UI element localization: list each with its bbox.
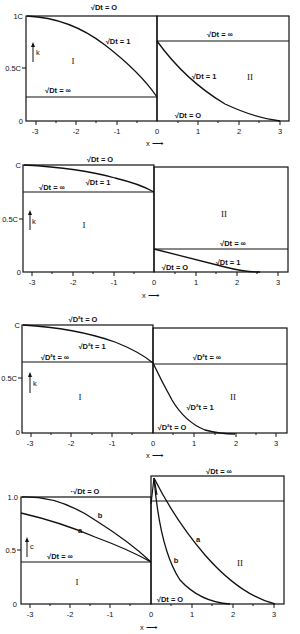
label-sqrtDt-0-I: ·√Dt = O: [71, 487, 100, 496]
x-axis-label: x ⟶: [146, 139, 164, 148]
label-sqrtDt-0-II: √Dt = O: [157, 595, 184, 604]
curve-sqrtDt-1-I: [27, 16, 157, 97]
x-axis-label: x ⟶: [140, 623, 158, 632]
chart-panel-2: -3 -2 -1 0 1 2 3 C 0.5C 0 k √Dt = O √Dt …: [0, 150, 300, 300]
x-tick-label: -2: [67, 610, 74, 619]
x-tick-label: 1: [190, 610, 194, 619]
label-sqrtDt-0-II: √Dt = O: [175, 111, 202, 120]
y-tick-label: C: [16, 161, 22, 170]
x-tick-label: 3: [274, 439, 278, 448]
region-II-frame: [153, 328, 287, 433]
y-tick-label: 0: [16, 428, 20, 437]
x-tick-label: -2: [68, 439, 75, 448]
label-sqrtDt-inf-I: √Dt = ∞: [45, 86, 71, 95]
region-II-label: II: [237, 558, 243, 568]
x-tick-label: 2: [237, 127, 241, 136]
chart-panel-2-svg: -3 -2 -1 0 1 2 3 C 0.5C 0 k √Dt = O √Dt …: [0, 150, 300, 300]
x-tick-label: 0: [152, 278, 156, 287]
y-axis-label: k: [32, 217, 36, 226]
y-axis-label: c: [30, 542, 34, 551]
x-tick-label: 0: [155, 127, 159, 136]
x-tick-label: 0: [149, 610, 153, 619]
label-sqrtD2t-1-II: √D²t = 1: [186, 403, 213, 412]
y-tick-label: 0.5C: [2, 215, 18, 224]
label-sqrtD2t-0-II: √D²t = O: [158, 423, 187, 432]
label-sqrtDt-1-II: √Dt = 1: [216, 258, 241, 267]
label-sqrtDt-0-I: √Dt = O: [87, 155, 114, 164]
y-tick-label: 0.5C: [5, 64, 21, 73]
x-tick-label: 1: [194, 278, 198, 287]
y-tick-label: 1.0: [8, 493, 18, 502]
x-ticks: [18, 378, 276, 437]
region-I-label: I: [79, 392, 82, 402]
x-tick-label: 2: [234, 439, 238, 448]
y-axis-arrow-icon: [28, 372, 32, 393]
x-tick-label: 2: [235, 278, 239, 287]
x-tick-label: 2: [231, 610, 235, 619]
label-curve-a-II: a: [196, 535, 201, 544]
y-tick-label: 0: [19, 117, 23, 126]
label-sqrtDt-1-I: √Dt = 1: [106, 37, 131, 46]
y-axis-label: k: [33, 379, 37, 388]
region-I-frame: [21, 497, 151, 604]
region-II-frame: [154, 167, 288, 272]
y-tick-label: 0: [17, 268, 21, 277]
label-curve-b-I: b: [98, 511, 103, 520]
label-sqrtDt-inf-II: √Dt = ∞: [220, 239, 246, 248]
label-sqrtD2t-inf-I: √D²t = ∞: [41, 353, 69, 362]
x-tick-label: 3: [272, 610, 276, 619]
chart-panel-4: -3 -2 -1 0 1 2 3 1.0 0.5 0 c ·√Dt = O b …: [0, 460, 300, 634]
chart-panel-3: -3 -2 -1 0 1 2 3 C 0.5C 0 k √D²t = O √D²…: [0, 300, 300, 460]
label-sqrtDt-1-II: √Dt = 1: [192, 72, 217, 81]
x-tick-label: -1: [107, 610, 114, 619]
chart-panel-1: -3 -2 -1 0 1 2 3 1C 0.5C 0 k √Dt = O √Dt…: [0, 0, 300, 150]
label-sqrtDt-inf-II: √Dt = ∞: [206, 467, 232, 476]
region-II-label: II: [247, 72, 253, 82]
label-sqrtDt-0-I: √Dt = O: [91, 3, 118, 12]
region-I-label: I: [83, 220, 86, 230]
y-tick-label: 0.5C: [1, 374, 17, 383]
label-sqrtDt-1-I: √Dt = 1: [86, 178, 111, 187]
x-tick-label: 1: [196, 127, 200, 136]
x-tick-label: -1: [109, 439, 116, 448]
x-tick-label: -2: [70, 278, 77, 287]
region-I-frame: [26, 16, 157, 121]
label-sqrtD2t-inf-II: √D²t = ∞: [193, 353, 221, 362]
x-tick-label: 0: [151, 439, 155, 448]
curve-b-II: [154, 478, 230, 604]
x-axis-label: x ⟶: [146, 451, 164, 460]
y-axis-label: k: [36, 48, 40, 57]
chart-panel-4-svg: -3 -2 -1 0 1 2 3 1.0 0.5 0 c ·√Dt = O b …: [0, 460, 300, 634]
label-sqrtDt-inf-I: √Dt = ∞: [47, 552, 73, 561]
x-tick-label: 1: [192, 439, 196, 448]
region-II-label: II: [221, 209, 227, 219]
label-curve-b-II: b: [174, 556, 179, 565]
y-tick-label: C: [15, 321, 21, 330]
x-tick-label: -2: [73, 127, 80, 136]
x-tick-label: 3: [278, 127, 282, 136]
label-sqrtD2t-1-I: √D²t = 1: [78, 342, 105, 351]
x-tick-label: -1: [114, 127, 121, 136]
y-tick-label: 0: [13, 600, 17, 609]
curve-a-I: [21, 513, 151, 562]
label-sqrtDt-inf-I: √Dt = ∞: [39, 183, 65, 192]
curve-a-II: [154, 478, 275, 604]
chart-panel-3-svg: -3 -2 -1 0 1 2 3 C 0.5C 0 k √D²t = O √D²…: [0, 300, 300, 460]
x-tick-label: 3: [276, 278, 280, 287]
curve-sqrtDt-1-II: [157, 41, 280, 121]
region-II-frame: [151, 476, 284, 604]
x-tick-label: -3: [32, 127, 39, 136]
y-tick-label: 0.5: [6, 546, 16, 555]
x-tick-label: -3: [27, 610, 34, 619]
label-curve-a-I: a: [78, 526, 83, 535]
y-tick-label: 1C: [13, 12, 23, 21]
region-II-label: II: [230, 392, 236, 402]
label-sqrtDt-0-II: √Dt = O: [162, 263, 189, 272]
label-sqrtD2t-0-I: √D²t = O: [69, 315, 98, 324]
y-axis-arrow-icon: [25, 537, 29, 557]
region-I-label: I: [76, 577, 79, 587]
x-axis-label: x ⟶: [142, 291, 160, 300]
x-tick-label: -1: [111, 278, 118, 287]
label-sqrtDt-inf-II: √Dt = ∞: [207, 30, 233, 39]
x-tick-label: -3: [29, 278, 36, 287]
